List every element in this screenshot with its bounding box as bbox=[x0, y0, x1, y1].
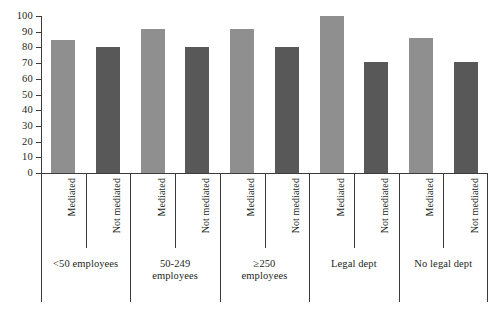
bar-chart-figure: 0102030405060708090100 MediatedNot media… bbox=[0, 0, 493, 320]
group-label-line: employees bbox=[220, 270, 309, 282]
subcategory-separator bbox=[175, 174, 176, 248]
subcategory-label-text: Not mediated bbox=[380, 178, 390, 248]
y-tick-label: 90 bbox=[22, 26, 33, 37]
grid-border-left bbox=[41, 174, 42, 302]
bar[interactable] bbox=[364, 62, 388, 173]
group-label-line: Legal dept bbox=[309, 258, 398, 270]
y-tick-mark bbox=[36, 63, 41, 64]
subcategory-label-text: Not mediated bbox=[112, 178, 122, 248]
subcategory-separator bbox=[265, 174, 266, 248]
y-tick-mark bbox=[36, 47, 41, 48]
group-label-line: employees bbox=[130, 270, 219, 282]
subcategory-label: Not mediated bbox=[201, 178, 211, 248]
group-label: ≥250employees bbox=[220, 258, 309, 283]
group-label: Legal dept bbox=[309, 258, 398, 270]
category-label-grid: MediatedNot mediatedMediatedNot mediated… bbox=[41, 174, 488, 302]
subcategory-label: Not mediated bbox=[380, 178, 390, 248]
bar[interactable] bbox=[141, 29, 165, 173]
y-tick-label: 80 bbox=[22, 42, 33, 53]
bar[interactable] bbox=[409, 38, 433, 173]
y-tick-mark bbox=[36, 126, 41, 127]
subcategory-label: Not mediated bbox=[470, 178, 480, 248]
subcategory-label-text: Not mediated bbox=[201, 178, 211, 248]
subcategory-label: Mediated bbox=[425, 178, 435, 248]
group-label: <50 employees bbox=[41, 258, 130, 270]
y-tick-label: 50 bbox=[22, 89, 33, 100]
subcategory-label-text: Mediated bbox=[336, 178, 346, 248]
subcategory-separator bbox=[443, 174, 444, 248]
y-tick-mark bbox=[36, 32, 41, 33]
subcategory-label: Mediated bbox=[67, 178, 77, 248]
group-separator bbox=[130, 174, 131, 302]
group-label: No legal dept bbox=[399, 258, 488, 270]
y-tick-mark bbox=[36, 79, 41, 80]
group-label-line: ≥250 bbox=[220, 258, 309, 270]
subcategory-label: Not mediated bbox=[291, 178, 301, 248]
y-tick-mark bbox=[36, 16, 41, 17]
subcategory-label: Mediated bbox=[246, 178, 256, 248]
group-separator bbox=[220, 174, 221, 302]
group-label-line: No legal dept bbox=[399, 258, 488, 270]
y-tick-label: 20 bbox=[22, 136, 33, 147]
group-label: 50-249employees bbox=[130, 258, 219, 283]
plot-area: 0102030405060708090100 bbox=[41, 16, 488, 173]
group-separator bbox=[309, 174, 310, 302]
y-tick-label: 30 bbox=[22, 121, 33, 132]
subcategory-label-text: Mediated bbox=[157, 178, 167, 248]
subcategory-label: Not mediated bbox=[112, 178, 122, 248]
y-tick-label: 100 bbox=[17, 11, 33, 22]
subcategory-label-text: Not mediated bbox=[291, 178, 301, 248]
subcategory-label-text: Not mediated bbox=[470, 178, 480, 248]
bar[interactable] bbox=[51, 40, 75, 173]
subcategory-label: Mediated bbox=[336, 178, 346, 248]
bar[interactable] bbox=[96, 47, 120, 173]
y-tick-mark bbox=[36, 95, 41, 96]
group-label-line: 50-249 bbox=[130, 258, 219, 270]
y-tick-label: 0 bbox=[28, 168, 33, 179]
subcategory-label-text: Mediated bbox=[425, 178, 435, 248]
bar[interactable] bbox=[275, 47, 299, 173]
y-tick-label: 70 bbox=[22, 58, 33, 69]
subcategory-label-text: Mediated bbox=[246, 178, 256, 248]
y-tick-mark bbox=[36, 110, 41, 111]
y-tick-label: 10 bbox=[22, 152, 33, 163]
bar[interactable] bbox=[185, 47, 209, 173]
bar[interactable] bbox=[320, 16, 344, 173]
grid-border-right bbox=[487, 174, 488, 302]
y-tick-label: 60 bbox=[22, 74, 33, 85]
subcategory-label-text: Mediated bbox=[67, 178, 77, 248]
subcategory-separator bbox=[86, 174, 87, 248]
bar[interactable] bbox=[454, 62, 478, 173]
y-tick-label: 40 bbox=[22, 105, 33, 116]
group-label-line: <50 employees bbox=[41, 258, 130, 270]
y-tick-mark bbox=[36, 157, 41, 158]
bar[interactable] bbox=[230, 29, 254, 173]
y-tick-mark bbox=[36, 142, 41, 143]
subcategory-label: Mediated bbox=[157, 178, 167, 248]
group-separator bbox=[399, 174, 400, 302]
subcategory-separator bbox=[354, 174, 355, 248]
